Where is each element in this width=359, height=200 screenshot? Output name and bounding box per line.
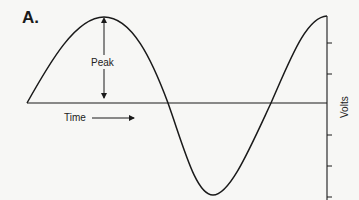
volts-axis-label: Volts: [339, 96, 350, 118]
volts-axis-ticks: [327, 43, 332, 197]
panel-label: A.: [22, 8, 39, 27]
sine-wave-diagram: A. Peak Time Volts: [0, 0, 359, 200]
sine-wave-curve: [27, 16, 327, 195]
time-label: Time: [64, 112, 86, 123]
peak-label: Peak: [91, 57, 115, 68]
